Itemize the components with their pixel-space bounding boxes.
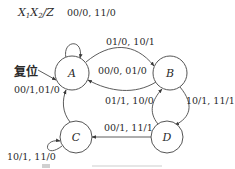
- label-d-b: 01/1, 10/0: [105, 95, 154, 106]
- svg-text:A: A: [67, 67, 76, 80]
- reset-label: 复位: [13, 64, 38, 79]
- label-b-a: 00/0, 01/0: [98, 65, 147, 76]
- edge-c-c: [47, 141, 62, 151]
- state-a: A: [55, 56, 89, 90]
- svg-text:C: C: [72, 131, 81, 144]
- caption-remnant: [42, 164, 50, 168]
- edge-a-b: [86, 47, 154, 66]
- label-d-c: 00/1, 11/1: [104, 122, 153, 133]
- state-diagram: X1X2/Z A B C D 00/0, 11/0 01/0, 10/1 00/…: [0, 0, 235, 169]
- label-c-c: 10/1, 11/0: [7, 151, 56, 162]
- state-c: C: [60, 121, 92, 153]
- label-b-d: 10/1, 11/1: [186, 95, 235, 106]
- svg-text:B: B: [165, 67, 174, 80]
- state-b: B: [153, 56, 187, 90]
- edge-c-a: [63, 90, 70, 122]
- io-header: X1X2/Z: [17, 6, 54, 20]
- svg-text:D: D: [162, 131, 172, 144]
- state-d: D: [151, 121, 183, 153]
- label-a-a: 00/0, 11/0: [67, 7, 116, 18]
- caption-remnant-line: [92, 165, 162, 167]
- reset-arrow: [38, 70, 56, 80]
- edge-b-d: [175, 87, 189, 125]
- label-a-b: 01/0, 10/1: [106, 36, 155, 47]
- label-c-a: 00/1,01/0: [14, 84, 60, 95]
- edge-b-a: [88, 80, 156, 90]
